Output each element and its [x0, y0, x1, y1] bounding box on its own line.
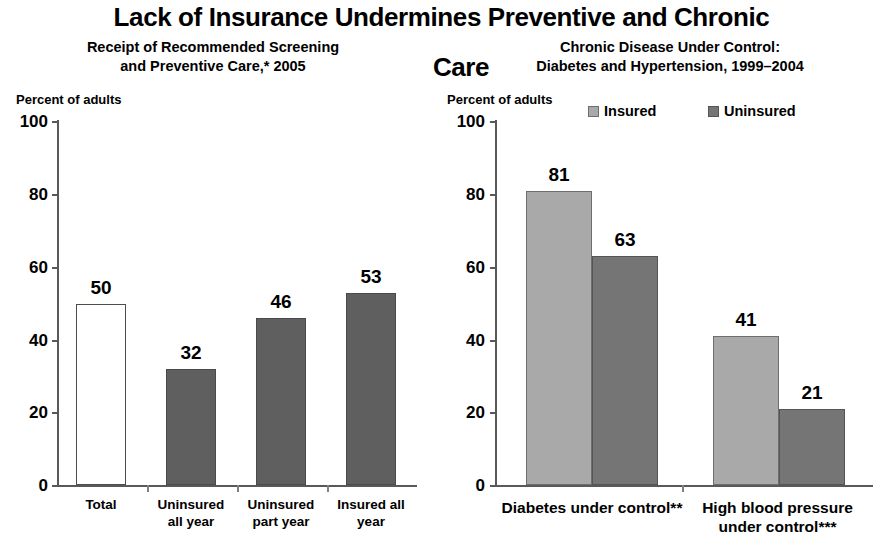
right-ytick-20 [490, 412, 497, 414]
right-category-label-diabetes-line1: Diabetes under control** [492, 498, 692, 517]
bar-total[interactable] [76, 304, 126, 485]
right-category-label-diabetes: Diabetes under control** [492, 498, 692, 517]
left-category-label-insured-all-year-line2: year [326, 513, 416, 530]
left-plot-area: 100 80 60 40 20 0 50 32 46 53 Total Unin… [0, 0, 440, 549]
right-plot-area: 100 80 60 40 20 0 81 63 41 21 Diabetes u… [440, 0, 883, 549]
left-ytick-0 [52, 485, 59, 487]
bar-uninsured-all-year[interactable] [166, 369, 216, 485]
right-ytick-label-80: 80 [445, 186, 485, 203]
bar-bloodpressure-uninsured[interactable] [779, 409, 845, 485]
left-category-label-total: Total [61, 496, 141, 513]
left-ytick-label-100: 100 [8, 113, 48, 130]
left-ytick-label-60: 60 [8, 259, 48, 276]
left-category-label-total-line1: Total [61, 496, 141, 513]
left-xtick-3 [327, 485, 329, 492]
bar-uninsured-part-year[interactable] [256, 318, 306, 485]
right-xtick-group-separator [682, 485, 684, 492]
left-category-label-uninsured-all-year: Uninsured all year [146, 496, 236, 530]
left-xtick-1 [147, 485, 149, 492]
right-category-label-blood-pressure-line1: High blood pressure [680, 498, 875, 517]
right-chart-panel: Chronic Disease Under Control: Diabetes … [440, 0, 883, 549]
left-ytick-40 [52, 340, 59, 342]
right-category-label-blood-pressure: High blood pressure under control*** [680, 498, 875, 536]
right-x-axis-line [495, 485, 873, 487]
right-ytick-0 [490, 485, 497, 487]
bar-diabetes-insured[interactable] [526, 191, 592, 485]
bar-value-diabetes-uninsured: 63 [595, 230, 655, 249]
left-category-label-uninsured-all-year-line2: all year [146, 513, 236, 530]
left-category-label-uninsured-part-year-line2: part year [236, 513, 326, 530]
right-ytick-100 [490, 121, 497, 123]
bar-value-bloodpressure-insured: 41 [716, 310, 776, 329]
left-ytick-80 [52, 194, 59, 196]
bar-value-uninsured-all-year: 32 [161, 343, 221, 362]
left-ytick-label-0: 0 [8, 477, 48, 494]
left-ytick-label-40: 40 [8, 332, 48, 349]
bar-value-bloodpressure-uninsured: 21 [782, 383, 842, 402]
right-ytick-label-60: 60 [445, 259, 485, 276]
bar-diabetes-uninsured[interactable] [592, 256, 658, 485]
bar-value-diabetes-insured: 81 [529, 165, 589, 184]
bar-insured-all-year[interactable] [346, 293, 396, 485]
bar-value-insured-all-year: 53 [341, 267, 401, 286]
left-category-label-uninsured-part-year: Uninsured part year [236, 496, 326, 530]
right-ytick-label-100: 100 [445, 113, 485, 130]
left-category-label-insured-all-year: Insured all year [326, 496, 416, 530]
left-chart-panel: Receipt of Recommended Screening and Pre… [0, 0, 440, 549]
left-ytick-20 [52, 412, 59, 414]
right-ytick-80 [490, 194, 497, 196]
left-ytick-label-20: 20 [8, 404, 48, 421]
right-ytick-60 [490, 267, 497, 269]
left-xtick-2 [237, 485, 239, 492]
right-ytick-label-40: 40 [445, 332, 485, 349]
left-y-axis-line [57, 120, 59, 487]
left-ytick-100 [52, 121, 59, 123]
right-y-axis-line [495, 120, 497, 487]
right-ytick-label-0: 0 [445, 477, 485, 494]
right-ytick-40 [490, 340, 497, 342]
bar-value-total: 50 [71, 278, 131, 297]
bar-bloodpressure-insured[interactable] [713, 336, 779, 485]
right-category-label-blood-pressure-line2: under control*** [680, 517, 875, 536]
left-category-label-uninsured-part-year-line1: Uninsured [236, 496, 326, 513]
left-category-label-uninsured-all-year-line1: Uninsured [146, 496, 236, 513]
bar-value-uninsured-part-year: 46 [251, 292, 311, 311]
left-ytick-label-80: 80 [8, 186, 48, 203]
left-category-label-insured-all-year-line1: Insured all [326, 496, 416, 513]
right-ytick-label-20: 20 [445, 404, 485, 421]
left-ytick-60 [52, 267, 59, 269]
